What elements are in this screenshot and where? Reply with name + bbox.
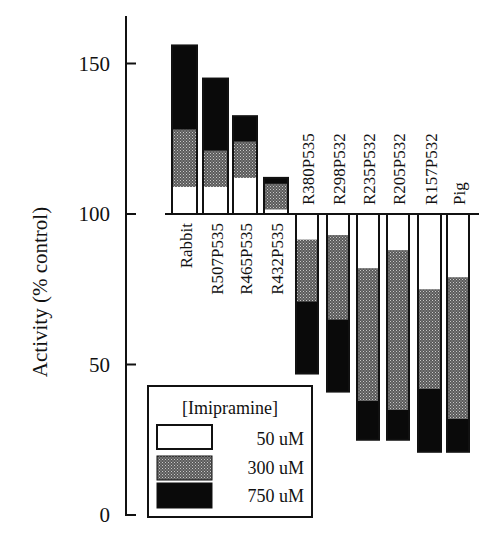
bar-R432P535: [264, 178, 288, 214]
category-label: R157P532: [422, 133, 441, 205]
category-label: Rabbit: [177, 223, 196, 269]
segment-300uM: [296, 240, 318, 302]
category-label: R298P532: [330, 133, 349, 205]
legend-label-300uM: 300 uM: [247, 458, 304, 478]
bar-R298P532: [327, 214, 349, 392]
segment-750uM: [418, 389, 441, 452]
bar-R380P535: [296, 214, 318, 374]
segment-300uM: [357, 268, 379, 400]
category-label: R507P535: [208, 223, 227, 295]
legend: [Imipramine] 50 uM 300 uM 750 uM: [148, 386, 312, 517]
bar-R157P532: [418, 214, 441, 452]
y-tick-label: 50: [89, 353, 110, 377]
segment-300uM: [172, 130, 197, 187]
legend-label-50uM: 50 uM: [256, 429, 304, 449]
segment-50uM: [296, 214, 318, 240]
y-tick-label: 0: [100, 503, 111, 527]
segment-50uM: [172, 187, 197, 214]
legend-swatch-300uM: [157, 456, 212, 480]
segment-300uM: [327, 235, 349, 319]
legend-swatch-750uM: [157, 483, 212, 508]
category-label: Pig: [450, 182, 469, 205]
bar-Pig: [447, 214, 469, 452]
category-label: R465P535: [237, 223, 256, 295]
category-label: R205P532: [390, 133, 409, 205]
segment-300uM: [418, 289, 441, 388]
category-label: R380P535: [299, 133, 318, 205]
bar-R507P535: [203, 79, 228, 214]
segment-50uM: [447, 214, 469, 277]
segment-50uM: [203, 187, 228, 214]
bar-R205P532: [387, 214, 409, 440]
segment-750uM: [327, 319, 349, 391]
y-axis: 150100500 Activity (% control): [28, 16, 136, 527]
stacked-bar-chart: 150100500 Activity (% control) RabbitR50…: [0, 0, 497, 554]
segment-300uM: [264, 184, 288, 210]
segment-750uM: [357, 401, 379, 440]
segment-750uM: [172, 45, 197, 129]
y-tick-label: 100: [79, 202, 111, 226]
segment-300uM: [233, 142, 257, 178]
segment-300uM: [203, 151, 228, 187]
y-axis-title: Activity (% control): [28, 207, 52, 377]
segment-750uM: [387, 410, 409, 440]
segment-300uM: [447, 277, 469, 418]
segment-750uM: [296, 301, 318, 373]
segment-50uM: [418, 214, 441, 289]
legend-swatch-50uM: [157, 425, 212, 449]
segment-300uM: [387, 250, 409, 410]
category-label: R432P535: [268, 223, 287, 295]
legend-label-750uM: 750 uM: [247, 486, 304, 506]
bar-R235P532: [357, 214, 379, 440]
segment-50uM: [327, 214, 349, 235]
segment-50uM: [387, 214, 409, 250]
segment-50uM: [233, 178, 257, 214]
segment-50uM: [357, 214, 379, 268]
bar-Rabbit: [172, 45, 197, 214]
segment-750uM: [233, 116, 257, 142]
legend-title: [Imipramine]: [182, 398, 278, 418]
segment-750uM: [203, 79, 228, 151]
category-label: R235P532: [360, 133, 379, 205]
y-tick-label: 150: [79, 52, 111, 76]
bar-R465P535: [233, 116, 257, 214]
segment-750uM: [447, 419, 469, 452]
